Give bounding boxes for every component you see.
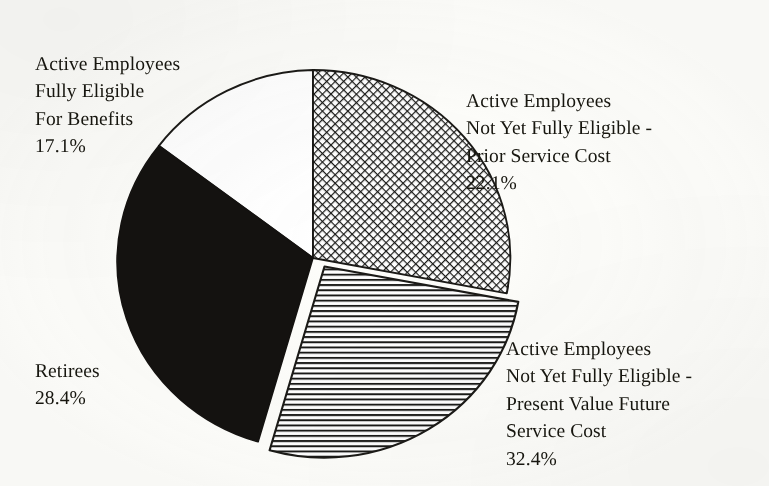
pie-label-present-value-future-service-cost: Active Employees Not Yet Fully Eligible … bbox=[506, 308, 769, 486]
pie-label-prior-service-cost-percent: 22.1% bbox=[466, 170, 766, 198]
pie-label-fully-eligible-text: Active Employees Fully Eligible For Bene… bbox=[35, 54, 180, 130]
pie-label-retirees: Retirees28.4% bbox=[35, 330, 215, 440]
pie-label-fully-eligible: Active Employees Fully Eligible For Bene… bbox=[35, 23, 275, 188]
pie-chart-figure: Active Employees Fully Eligible For Bene… bbox=[0, 0, 769, 486]
pie-label-retirees-percent: 28.4% bbox=[35, 385, 215, 413]
pie-label-prior-service-cost-text: Active Employees Not Yet Fully Eligible … bbox=[466, 91, 652, 167]
pie-label-prior-service-cost: Active Employees Not Yet Fully Eligible … bbox=[466, 60, 766, 225]
pie-label-present-value-future-service-cost-percent: 32.4% bbox=[506, 446, 769, 474]
pie-label-retirees-text: Retirees bbox=[35, 361, 100, 382]
pie-label-fully-eligible-percent: 17.1% bbox=[35, 133, 275, 161]
pie-slice-present-value-future-service-cost bbox=[270, 267, 519, 458]
pie-label-present-value-future-service-cost-text: Active Employees Not Yet Fully Eligible … bbox=[506, 339, 692, 443]
